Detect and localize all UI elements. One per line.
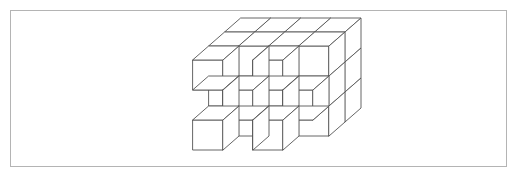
cube-face-front bbox=[193, 120, 223, 150]
cube-face-front bbox=[299, 46, 329, 76]
cube-figure bbox=[0, 0, 519, 180]
page-root bbox=[0, 0, 519, 180]
cube-group bbox=[193, 18, 361, 150]
isometric-cube-stack-svg bbox=[0, 0, 519, 180]
